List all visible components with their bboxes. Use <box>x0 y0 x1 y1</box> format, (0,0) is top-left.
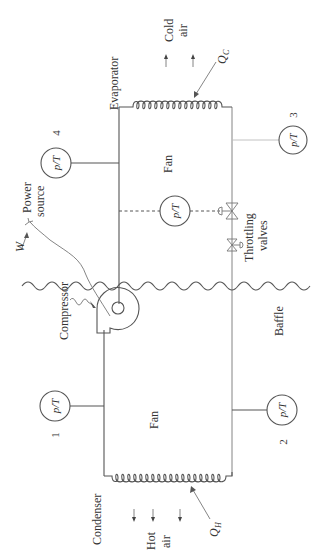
qc-label: Q C <box>215 49 231 64</box>
compressor-arrowhead-icon <box>90 301 96 308</box>
sensor-2-label: p/T <box>276 402 288 419</box>
sensor-1-label: p/T <box>49 398 61 415</box>
compressor-pointer <box>70 298 94 306</box>
throttling-valve-1 <box>218 203 238 219</box>
qh-sub: H <box>214 521 223 529</box>
work-label: W <box>13 241 27 252</box>
work-arrowhead-icon <box>24 232 29 238</box>
compressor <box>97 288 139 333</box>
sensor-4-station: 4 <box>50 130 62 136</box>
evaporator-coil <box>119 101 232 109</box>
qc-arrowhead-icon <box>194 91 199 98</box>
sensor-2-station: 2 <box>277 439 289 445</box>
qh-arrowhead-icon <box>190 486 196 493</box>
condenser-label: Condenser <box>90 494 104 545</box>
sensor-4: p/T 4 <box>41 130 71 178</box>
qh-label: Q H <box>207 521 223 537</box>
throttling-valve-2 <box>227 239 243 251</box>
hot-air-label-line1: Hot <box>144 531 158 550</box>
throttling-label-line2: valves <box>256 220 270 251</box>
power-source-label-line1: Power <box>20 182 34 213</box>
sensor-3: p/T 3 <box>279 112 307 154</box>
sensor-2: p/T 2 <box>267 395 297 445</box>
sensor-mid: p/T <box>160 196 190 226</box>
power-source-label-line2: source <box>33 186 47 217</box>
refrigeration-cycle-diagram: p/T 4 p/T 3 p/T p/T 1 p/T 2 Evaporator C… <box>0 0 318 556</box>
sensor-mid-label: p/T <box>169 203 181 220</box>
qc-arrow <box>196 62 216 94</box>
hot-air-arrows <box>132 509 182 522</box>
sensor-3-station: 3 <box>287 112 299 118</box>
cold-air-label-line2: air <box>176 24 190 37</box>
hot-air-label-line2: air <box>159 535 173 548</box>
sensor-3-label: p/T <box>288 132 299 148</box>
evaporator-label: Evaporator <box>107 57 121 110</box>
compressor-label: Compressor <box>57 282 71 340</box>
qh-arrow <box>193 490 210 519</box>
qh-main: Q <box>207 528 221 537</box>
qc-sub: C <box>222 49 231 55</box>
fan-top-label: Fan <box>161 155 175 173</box>
sensor-4-label: p/T <box>50 155 62 172</box>
sensor-1: p/T 1 <box>40 391 70 438</box>
cold-air-label-line1: Cold <box>162 19 176 42</box>
baffle-label: Baffle <box>272 306 286 336</box>
condenser-coil <box>104 472 232 482</box>
cold-air-arrows <box>164 54 195 67</box>
throttling-label-line1: Throttling <box>242 213 256 262</box>
sensor-1-station: 1 <box>49 432 61 438</box>
fan-bottom-label: Fan <box>147 411 161 429</box>
qc-main: Q <box>215 55 229 64</box>
